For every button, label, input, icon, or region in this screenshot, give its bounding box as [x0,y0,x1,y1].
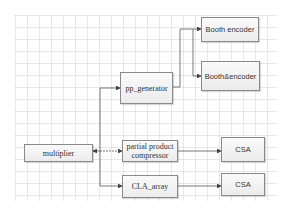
node-pp-generator[interactable]: pp_generator [120,72,173,104]
node-label: partial product compressor [123,142,177,160]
node-cla-array[interactable]: CLA_array [122,175,178,198]
node-label: pp_generator [125,84,167,93]
node-label: Booth encoder [206,25,255,34]
diagram-canvas: Booth encoder Booth&encoder pp_generator… [0,0,283,211]
node-partial-product-compressor[interactable]: partial product compressor [122,140,178,162]
node-label: CSA [235,180,250,189]
node-multiplier[interactable]: multiplier [24,144,93,162]
node-label: CSA [235,145,250,154]
node-csa-1[interactable]: CSA [221,137,265,162]
node-booth-encoder[interactable]: Booth encoder [201,17,259,42]
node-label: CLA_array [132,182,168,191]
node-csa-2[interactable]: CSA [221,173,265,196]
node-label: Booth&encoder [205,72,257,81]
node-label: multiplier [43,149,75,158]
node-booth-and-encoder[interactable]: Booth&encoder [201,61,260,91]
